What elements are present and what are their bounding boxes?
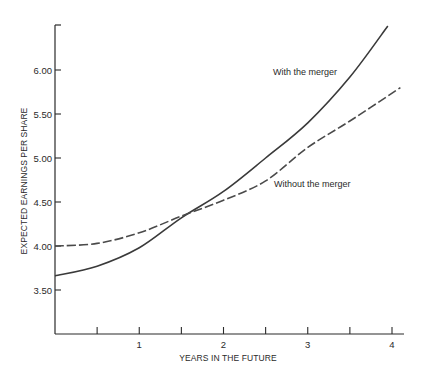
y-tick-label: 5.50 xyxy=(34,109,53,120)
y-tick-label: 3.50 xyxy=(34,285,53,296)
y-axis-title: EXPECTED EARNINGS PER SHARE xyxy=(19,107,29,254)
x-tick-label: 4 xyxy=(389,339,394,350)
without-merger-line xyxy=(55,88,400,246)
x-tick-label: 2 xyxy=(221,339,226,350)
x-tick-label: 3 xyxy=(305,339,310,350)
y-tick-label: 5.00 xyxy=(34,153,53,164)
x-tick-label: 1 xyxy=(137,339,142,350)
x-axis-title: YEARS IN THE FUTURE xyxy=(179,353,277,363)
series-lines xyxy=(55,26,400,276)
y-ticks: 3.504.004.505.005.506.00 xyxy=(34,65,62,296)
y-tick-label: 6.00 xyxy=(34,65,53,76)
without-merger-label: Without the merger xyxy=(274,179,351,189)
y-tick-label: 4.50 xyxy=(34,197,53,208)
with-merger-label: With the merger xyxy=(273,67,337,77)
x-ticks: 1234 xyxy=(97,327,395,350)
with-merger-line xyxy=(55,26,388,276)
earnings-chart: 1234 3.504.004.505.005.506.00 With the m… xyxy=(0,0,426,377)
axes xyxy=(55,25,404,334)
y-tick-label: 4.00 xyxy=(34,241,53,252)
